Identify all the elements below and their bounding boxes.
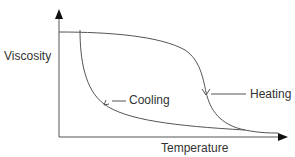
heating-label: Heating — [250, 88, 291, 100]
cooling-direction-arrow-icon — [104, 100, 109, 105]
x-axis-label: Temperature — [161, 142, 228, 154]
cooling-label: Cooling — [129, 94, 170, 106]
y-axis-label: Viscosity — [4, 50, 51, 62]
x-axis-arrow-icon — [278, 133, 288, 141]
cooling-curve — [80, 30, 245, 130]
y-axis-arrow-icon — [55, 9, 63, 19]
heating-curve — [59, 32, 278, 133]
viscosity-temperature-diagram — [0, 0, 295, 157]
